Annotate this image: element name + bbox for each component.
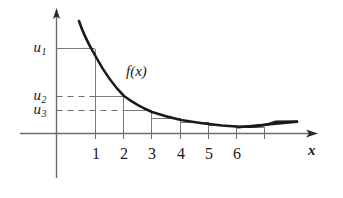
- x-tick-label-3: 3: [144, 146, 160, 162]
- y-tick-label-u1-text: u: [34, 39, 42, 55]
- y-tick-label-u3-subscript: 3: [42, 108, 47, 119]
- y-tick-label-u3: u3: [16, 102, 46, 117]
- bar-outlines: [57, 49, 265, 134]
- x-tick-label-5: 5: [201, 146, 217, 162]
- x-tick-label-1: 1: [88, 146, 104, 162]
- x-axis-ticks: [96, 130, 265, 139]
- plot-canvas: [0, 0, 343, 198]
- function-curve-tail: [238, 122, 297, 127]
- y-tick-label-u1-subscript: 1: [42, 46, 47, 57]
- x-axis-label: x: [308, 143, 316, 158]
- y-tick-label-u3-text: u: [34, 101, 42, 117]
- x-tick-label-6: 6: [229, 146, 245, 162]
- x-tick-label-2: 2: [116, 146, 132, 162]
- y-tick-label-u2: u2: [16, 88, 46, 103]
- function-label: f(x): [126, 64, 147, 79]
- x-tick-label-4: 4: [173, 146, 189, 162]
- y-axis: [53, 8, 60, 178]
- dashed-guides: [57, 97, 125, 111]
- x-axis: [20, 130, 318, 138]
- function-series-diagram: u1 u2 u3 1 2 3 4 5 6 x f(x): [0, 0, 343, 198]
- y-tick-label-u1: u1: [16, 40, 46, 55]
